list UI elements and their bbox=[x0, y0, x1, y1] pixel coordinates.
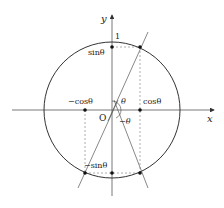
neg-theta-label: −θ bbox=[119, 117, 131, 126]
point-r bbox=[83, 171, 87, 175]
neg-sin-label: −sinθ bbox=[84, 161, 108, 170]
theta-label: θ bbox=[121, 97, 126, 106]
sin-label: sinθ bbox=[88, 48, 105, 57]
point-neg-cos bbox=[83, 108, 87, 112]
x-axis-label: x bbox=[207, 113, 213, 124]
point-q bbox=[138, 171, 142, 175]
one-label: 1 bbox=[115, 32, 120, 41]
point-sin bbox=[110, 45, 114, 49]
point-cos bbox=[138, 108, 142, 112]
cos-label: cosθ bbox=[143, 97, 161, 106]
neg-cos-label: −cosθ bbox=[68, 97, 93, 106]
ray-theta bbox=[108, 32, 148, 121]
point-p bbox=[138, 45, 142, 49]
origin-label: O bbox=[99, 113, 106, 123]
point-neg-sin bbox=[110, 171, 114, 175]
y-axis-label: y bbox=[100, 13, 107, 24]
unit-circle-diagram: y x O 1 sinθ −sinθ cosθ −cosθ θ −θ bbox=[0, 0, 224, 208]
